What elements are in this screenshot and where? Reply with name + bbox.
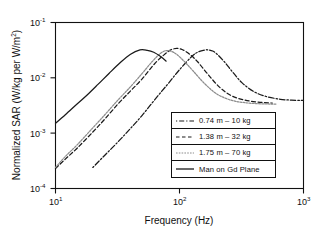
legend-label: 1.75 m – 70 kg [199,148,251,157]
x-axis-title: Frequency (Hz) [145,215,214,226]
legend-label: Man on Gd Plane [199,165,260,174]
y-tick-label-1e-4: 10-4 [30,182,46,194]
x-tick-label-1e1: 101 [49,195,63,207]
legend-row: 0.74 m – 10 kg [172,113,275,129]
legend-box: 0.74 m – 10 kg 1.38 m – 32 kg 1.75 m – 7… [171,112,276,178]
y-axis-title: Normalized SAR (W/kg per W/m2) [10,30,22,180]
y-tick-label-1e-3: 10-3 [30,127,46,139]
y-tick-label-1e-1: 10-1 [30,16,46,28]
solid-line-sample [175,164,195,174]
legend-label: 0.74 m – 10 kg [199,116,251,125]
x-tick-label-1e3: 103 [297,195,311,207]
x-axis-tick-labels: 101 102 103 [49,195,311,207]
chart-canvas: 10-1 10-2 10-3 10-4 101 102 103 Frequenc… [0,0,327,233]
legend-label: 1.38 m – 32 kg [199,132,251,141]
x-tick-label-1e2: 102 [173,195,187,207]
y-axis-tick-labels: 10-1 10-2 10-3 10-4 [30,16,46,194]
y-axis-ticks [51,23,56,189]
dashed-line-sample [175,132,195,142]
y-tick-label-1e-2: 10-2 [30,71,46,83]
legend-row: 1.38 m – 32 kg [172,129,275,145]
legend-row: 1.75 m – 70 kg [172,145,275,161]
figure-container: 10-1 10-2 10-3 10-4 101 102 103 Frequenc… [0,0,327,233]
fine-dash-line-sample [175,148,195,158]
x-axis-ticks [56,189,304,194]
legend-row: Man on Gd Plane [172,161,275,177]
dashdot-line-sample [175,116,195,126]
